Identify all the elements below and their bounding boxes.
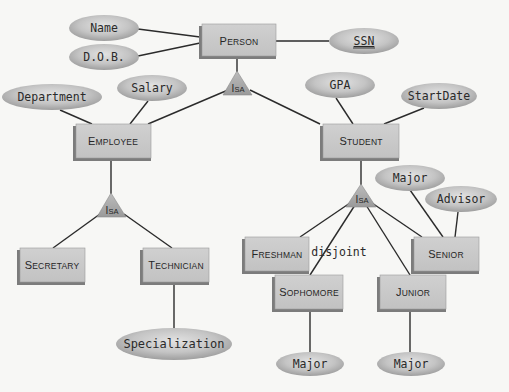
attribute-startdate-label: StartDate (408, 89, 470, 103)
edge-student-gpa (336, 98, 353, 124)
isa-person-label: ISA (232, 83, 245, 94)
attribute-name-label: Name (90, 21, 118, 35)
edge-isa-student (250, 90, 320, 124)
entity-freshman: FRESHMAN (242, 237, 309, 274)
attribute-sophomore-major: Major (276, 352, 344, 376)
entity-freshman-label: FRESHMAN (252, 248, 303, 260)
edge-person-dob (138, 43, 200, 56)
edge-student-startdate (384, 108, 424, 124)
entity-secretary-label: SECRETARY (25, 259, 80, 271)
entity-person: PERSON (199, 24, 276, 59)
entity-sophomore-label: SOPHOMORE (279, 286, 339, 298)
edge-employee-department (60, 110, 92, 124)
entity-sophomore: SOPHOMORE (272, 275, 343, 312)
isa-person: ISA (223, 71, 252, 95)
attribute-salary: Salary (117, 75, 187, 101)
attribute-dob-label: D.O.B. (83, 50, 125, 64)
attribute-dob: D.O.B. (69, 44, 139, 70)
attribute-salary-label: Salary (131, 81, 173, 95)
attribute-junior-major: Major (377, 352, 445, 376)
attribute-gpa: GPA (305, 72, 375, 98)
attribute-senior-major: Major (375, 165, 445, 191)
attribute-gpa-label: GPA (330, 78, 351, 92)
edge-isa-freshman (300, 203, 350, 237)
edge-isa-junior (366, 205, 410, 275)
entity-senior: SENIOR (411, 237, 479, 274)
attribute-senior-major-label: Major (393, 171, 428, 185)
entity-secretary: SECRETARY (17, 248, 85, 285)
attribute-specialization-label: Specialization (123, 337, 224, 351)
entity-technician: TECHNICIAN (140, 248, 209, 285)
entity-junior: JUNIOR (377, 275, 446, 312)
isa-student: ISA (346, 184, 376, 207)
entity-student-label: STUDENT (339, 135, 382, 147)
attribute-startdate: StartDate (401, 83, 477, 109)
attribute-junior-major-label: Major (394, 357, 429, 371)
attribute-sophomore-major-label: Major (293, 357, 328, 371)
edge-person-name (138, 29, 200, 37)
attribute-ssn-label: SSN (354, 34, 375, 48)
isa-employee: ISA (97, 193, 126, 217)
attribute-department: Department (2, 84, 102, 110)
disjoint-constraint-label: disjoint (311, 245, 366, 259)
edge-isa-secretary (53, 214, 100, 248)
entity-employee-label: EMPLOYEE (88, 135, 138, 147)
isa-employee-label: ISA (106, 205, 119, 216)
isa-student-label: ISA (356, 194, 369, 205)
attribute-specialization: Specialization (116, 328, 232, 360)
edge-senior-advisor (455, 212, 458, 237)
attribute-name: Name (69, 15, 139, 41)
attribute-advisor-label: Advisor (437, 192, 486, 206)
entity-senior-label: SENIOR (428, 248, 463, 260)
edge-employee-salary (130, 101, 148, 124)
attribute-advisor: Advisor (425, 186, 497, 212)
entity-person-label: PERSON (220, 35, 259, 47)
edge-isa-senior (372, 203, 422, 237)
edge-isa-technician (124, 214, 172, 248)
attribute-ssn-key: SSN (329, 28, 399, 54)
er-diagram: Name D.O.B. SSN Department Salary GPA St… (0, 0, 509, 392)
entity-junior-label: JUNIOR (396, 286, 430, 298)
entity-technician-label: TECHNICIAN (148, 259, 203, 271)
attribute-department-label: Department (17, 90, 86, 104)
entity-student: STUDENT (320, 124, 399, 161)
entity-employee: EMPLOYEE (73, 124, 151, 161)
